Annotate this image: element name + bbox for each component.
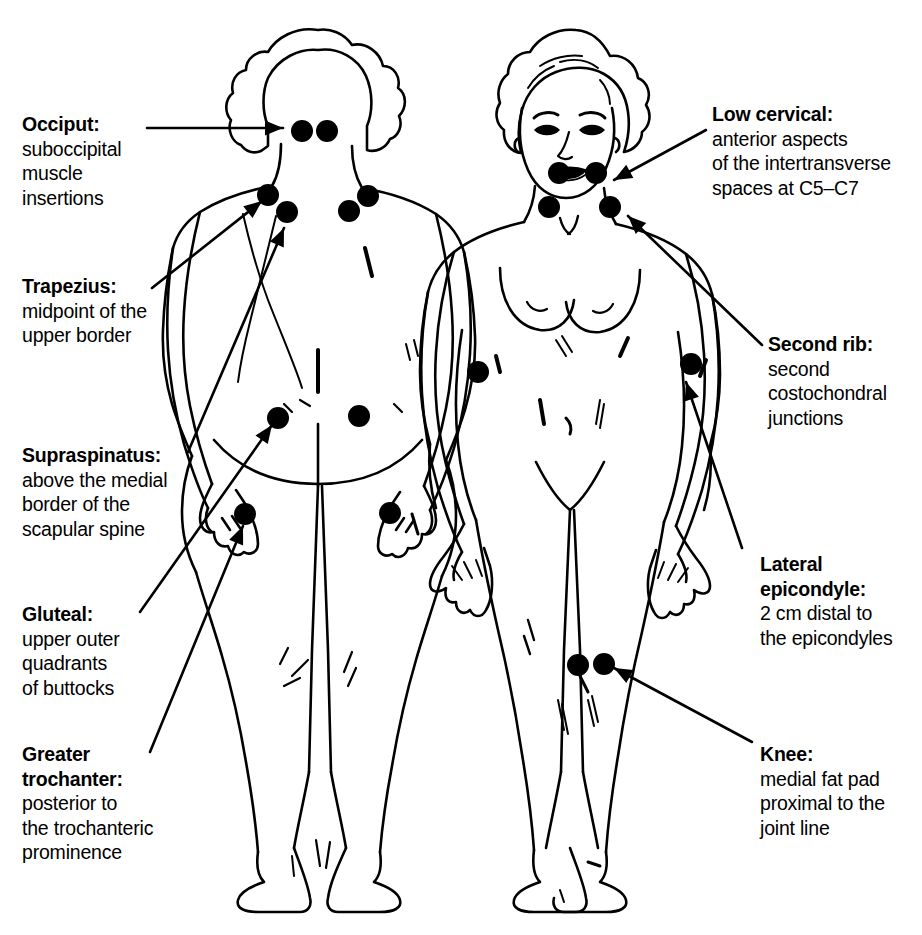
callout-lateral-epicondyle-title: Lateral epicondyle: [760, 552, 922, 601]
tender-point-trapezius-right [357, 185, 379, 207]
callout-gluteal-title: Gluteal: [22, 602, 202, 627]
tender-point-knee-left [567, 654, 589, 676]
tender-point-greater-trochanter-left [234, 503, 256, 525]
callout-knee-body: medial fat pad proximal to the joint lin… [760, 767, 922, 841]
callout-trapezius: Trapezius: midpoint of the upper border [22, 274, 222, 348]
tender-point-occiput-right [316, 120, 338, 142]
anterior-figure [420, 30, 720, 912]
tender-point-gluteal-left [267, 407, 289, 429]
callout-knee: Knee: medial fat pad proximal to the joi… [760, 742, 922, 840]
tender-point-lateral-epicondyle-right [680, 353, 702, 375]
callout-gluteal-body: upper outer quadrants of buttocks [22, 627, 202, 701]
callout-second-rib: Second rib: second costochondral junctio… [768, 332, 922, 430]
arrow-knee [614, 668, 752, 742]
callout-occiput-body: suboccipital muscle insertions [22, 137, 202, 211]
tender-point-second-rib-right [599, 196, 621, 218]
tender-point-supraspinatus-right [338, 200, 360, 222]
tender-point-trapezius-left [257, 184, 279, 206]
tender-point-gluteal-right [348, 405, 370, 427]
callout-trapezius-title: Trapezius: [22, 274, 222, 299]
tender-point-second-rib-left [538, 196, 560, 218]
callout-greater-trochanter-body: posterior to the trochanteric prominence [22, 791, 227, 865]
arrow-second-rib [628, 216, 762, 345]
callout-gluteal: Gluteal: upper outer quadrants of buttoc… [22, 602, 202, 700]
callout-low-cervical-title: Low cervical: [712, 102, 922, 127]
tender-point-occiput-left [291, 120, 313, 142]
callout-greater-trochanter: Greater trochanter: posterior to the tro… [22, 742, 227, 865]
tender-point-supraspinatus-left [276, 201, 298, 223]
callout-greater-trochanter-title: Greater trochanter: [22, 742, 227, 791]
callout-supraspinatus-title: Supraspinatus: [22, 443, 232, 468]
callout-lateral-epicondyle-body: 2 cm distal to the epicondyles [760, 601, 922, 650]
callout-knee-title: Knee: [760, 742, 922, 767]
tender-point-low-cervical-left [548, 162, 570, 184]
callout-supraspinatus-body: above the medial border of the scapular … [22, 468, 232, 542]
callout-low-cervical: Low cervical: anterior aspects of the in… [712, 102, 922, 200]
callout-lateral-epicondyle: Lateral epicondyle: 2 cm distal to the e… [760, 552, 922, 650]
callout-trapezius-body: midpoint of the upper border [22, 299, 222, 348]
callout-occiput: Occiput: suboccipital muscle insertions [22, 112, 202, 210]
callout-second-rib-title: Second rib: [768, 332, 922, 357]
diagram-canvas: Occiput: suboccipital muscle insertions … [0, 0, 922, 935]
callout-arrows [140, 121, 762, 753]
tender-point-lateral-epicondyle-left [467, 361, 489, 383]
callout-low-cervical-body: anterior aspects of the intertransverse … [712, 127, 922, 201]
callout-occiput-title: Occiput: [22, 112, 202, 137]
tender-point-greater-trochanter-right [379, 502, 401, 524]
callout-second-rib-body: second costochondral junctions [768, 357, 922, 431]
tender-point-knee-right [593, 653, 615, 675]
callout-supraspinatus: Supraspinatus: above the medial border o… [22, 443, 232, 541]
tender-point-low-cervical-right [585, 162, 607, 184]
